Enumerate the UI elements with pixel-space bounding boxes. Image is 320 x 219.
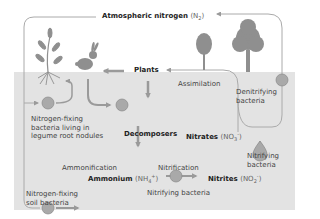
- legume-plant-icon: [35, 28, 63, 85]
- legume-bacteria-label: Nitrogen-fixing bacteria living in legum…: [31, 115, 103, 141]
- small-tree-icon: [196, 33, 212, 70]
- large-tree-icon: [232, 19, 264, 72]
- rabbit-icon: [75, 42, 99, 70]
- legume-bacteria-icon: [42, 97, 54, 109]
- nitrites-label: Nitrites (NO2-): [208, 172, 261, 186]
- denitrifying-bacteria-icon: [276, 74, 288, 86]
- nitrates-label: Nitrates (NO3-): [186, 130, 242, 144]
- nitrification-label: Nitrification: [158, 164, 199, 173]
- nitrifying-bacteria-right-label: Nitrifying bacteria: [247, 152, 279, 169]
- atmospheric-nitrogen-label: Atmospheric nitrogen (N2): [102, 12, 204, 23]
- ammonium-label: Ammonium (NH4+): [88, 172, 158, 186]
- decomposer-bacteria-icon: [116, 99, 128, 111]
- denitrifying-bacteria-label: Denitrifying bacteria: [236, 88, 277, 105]
- soil-bacteria-label: Nitrogen-fixing soil bacteria: [26, 190, 78, 207]
- decomposers-label: Decomposers: [124, 130, 177, 139]
- nitrifying-bacteria-bottom-label: Nitrifying bacteria: [147, 189, 210, 198]
- plants-label: Plants: [134, 66, 159, 75]
- assimilation-label: Assimilation: [178, 80, 220, 89]
